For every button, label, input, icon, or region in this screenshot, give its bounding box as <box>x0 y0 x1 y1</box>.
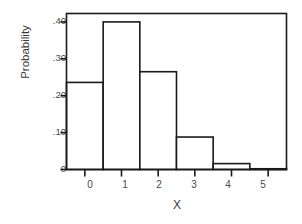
plot-area <box>0 0 302 224</box>
bar-series <box>67 22 287 170</box>
bar-x-0 <box>67 82 104 169</box>
bar-x-3 <box>177 137 214 169</box>
bar-x-2 <box>140 72 177 170</box>
probability-bar-chart: Probability .40 .30 .20 .10 0 0 1 2 3 4 … <box>0 0 302 224</box>
bar-x-1 <box>103 22 140 170</box>
bar-x-4 <box>213 164 250 170</box>
